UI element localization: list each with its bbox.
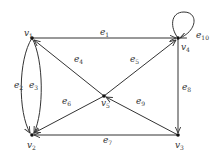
- edge-label-e3: e3: [29, 80, 38, 91]
- edge-label-e7: e7: [103, 135, 112, 146]
- edge-label-e10: e10: [196, 30, 209, 41]
- vertex-label-v5: v5: [101, 98, 110, 109]
- vertex-v3: [176, 133, 180, 137]
- vertex-label-v2: v2: [27, 140, 36, 151]
- edge-e5: [104, 40, 176, 96]
- vertex-label-v4: v4: [181, 42, 190, 53]
- vertex-v4: [176, 36, 180, 40]
- edge-label-e5: e5: [130, 54, 139, 65]
- edge-label-e9: e9: [136, 96, 145, 107]
- edge-label-e1: e1: [100, 27, 109, 38]
- graph-diagram: v1 v2 v3 v4 v5 e1 e2 e3 e4 e5 e6 e7 e8 e…: [0, 0, 211, 158]
- edge-e10-loop: [173, 12, 194, 38]
- edge-e4: [34, 40, 104, 96]
- edge-label-e6: e6: [62, 96, 71, 107]
- edge-label-e2: e2: [14, 80, 23, 91]
- edge-label-e4: e4: [74, 54, 83, 65]
- vertex-v2: [30, 133, 34, 137]
- vertex-label-v3: v3: [175, 140, 184, 151]
- edge-label-e8: e8: [182, 82, 191, 93]
- vertex-label-v1: v1: [24, 28, 33, 39]
